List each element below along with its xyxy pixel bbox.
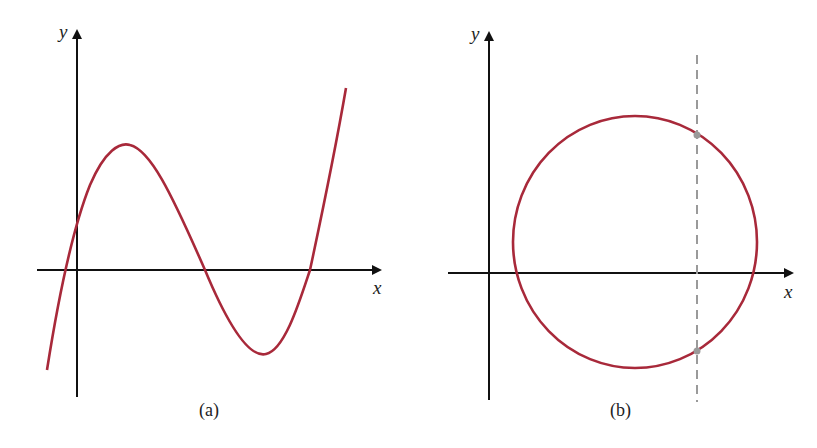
y-axis-label: y: [469, 23, 480, 44]
panel-b: y x (b): [448, 23, 793, 421]
x-axis-label: x: [372, 277, 382, 298]
intersection-point-bottom: [694, 348, 701, 355]
y-axis-label: y: [57, 21, 68, 42]
circle-curve: [513, 116, 757, 368]
figure: y x (a) y x (b): [0, 0, 817, 448]
cubic-curve: [47, 88, 346, 370]
caption-a: (a): [199, 400, 219, 421]
panel-a: y x (a): [37, 21, 382, 421]
caption-b: (b): [610, 400, 631, 421]
x-axis-label: x: [783, 281, 793, 302]
intersection-point-top: [694, 132, 701, 139]
